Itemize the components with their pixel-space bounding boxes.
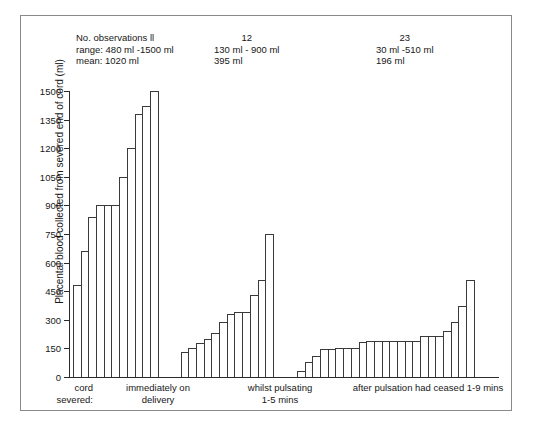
y-tick-label: 1050	[40, 171, 61, 182]
y-tick-label: 300	[45, 314, 61, 325]
annotation-group-3-observations: 23	[376, 32, 434, 44]
y-tick-mark	[64, 377, 69, 378]
x-axis-label-group-1: immediately on delivery	[99, 382, 217, 405]
y-tick-mark	[64, 234, 69, 235]
x-axis-label-group-1-line-2: delivery	[99, 394, 217, 406]
y-tick-mark	[64, 205, 69, 206]
y-tick-mark	[64, 120, 69, 121]
y-tick-mark	[64, 320, 69, 321]
x-axis-labels: cord severed: immediately on delivery wh…	[21, 382, 511, 412]
y-tick-mark	[64, 348, 69, 349]
y-tick-label: 900	[45, 200, 61, 211]
plot-area: 01503004506007509001050120013501500	[69, 91, 499, 378]
x-axis-prefix-label: cord severed:	[25, 382, 93, 405]
x-axis-prefix-line-2: severed:	[25, 394, 93, 406]
x-axis-label-group-2-line-1: whilst pulsating	[221, 382, 339, 394]
bar	[265, 234, 274, 377]
x-axis-line	[69, 377, 499, 378]
bar	[150, 91, 159, 377]
annotation-group-1-mean: mean: 1020 ml	[76, 55, 174, 67]
y-axis-line	[69, 91, 70, 378]
annotation-group-3: 23 30 ml -510 ml 196 ml	[376, 32, 434, 67]
x-axis-label-group-3-line-1: after pulsation had ceased 1-9 mins	[343, 382, 513, 394]
annotation-group-1-observations: No. observations ll	[76, 32, 174, 44]
annotation-group-3-range: 30 ml -510 ml	[376, 44, 434, 56]
y-tick-mark	[64, 263, 69, 264]
x-axis-label-group-3: after pulsation had ceased 1-9 mins	[343, 382, 513, 394]
y-tick-label: 600	[45, 257, 61, 268]
x-axis-label-group-2: whilst pulsating 1-5 mins	[221, 382, 339, 405]
annotation-group-1: No. observations ll range: 480 ml -1500 …	[76, 32, 174, 67]
annotation-group-1-range: range: 480 ml -1500 ml	[76, 44, 174, 56]
bar-group-1	[73, 91, 169, 377]
chart-figure: No. observations ll range: 480 ml -1500 …	[20, 15, 512, 411]
bar	[466, 280, 475, 377]
bar-group-2	[181, 91, 285, 377]
x-axis-prefix-line-1: cord	[25, 382, 93, 394]
y-tick-mark	[64, 177, 69, 178]
y-tick-label: 450	[45, 286, 61, 297]
x-axis-label-group-1-line-1: immediately on	[99, 382, 217, 394]
y-tick-label: 1200	[40, 143, 61, 154]
annotation-group-2-observations: 12	[214, 32, 279, 44]
y-tick-mark	[64, 148, 69, 149]
annotation-group-3-mean: 196 ml	[376, 55, 434, 67]
bar-group-3	[297, 91, 497, 377]
annotation-group-2-range: 130 ml - 900 ml	[214, 44, 279, 56]
y-tick-label: 1350	[40, 114, 61, 125]
y-tick-label: 1500	[40, 86, 61, 97]
annotation-block: No. observations ll range: 480 ml -1500 …	[21, 16, 511, 78]
y-tick-label: 750	[45, 229, 61, 240]
y-tick-label: 150	[45, 343, 61, 354]
y-tick-mark	[64, 91, 69, 92]
annotation-group-2-mean: 395 ml	[214, 55, 279, 67]
x-axis-label-group-2-line-2: 1-5 mins	[221, 394, 339, 406]
y-tick-mark	[64, 291, 69, 292]
annotation-group-2: 12 130 ml - 900 ml 395 ml	[214, 32, 279, 67]
y-tick-label: 0	[56, 372, 61, 383]
